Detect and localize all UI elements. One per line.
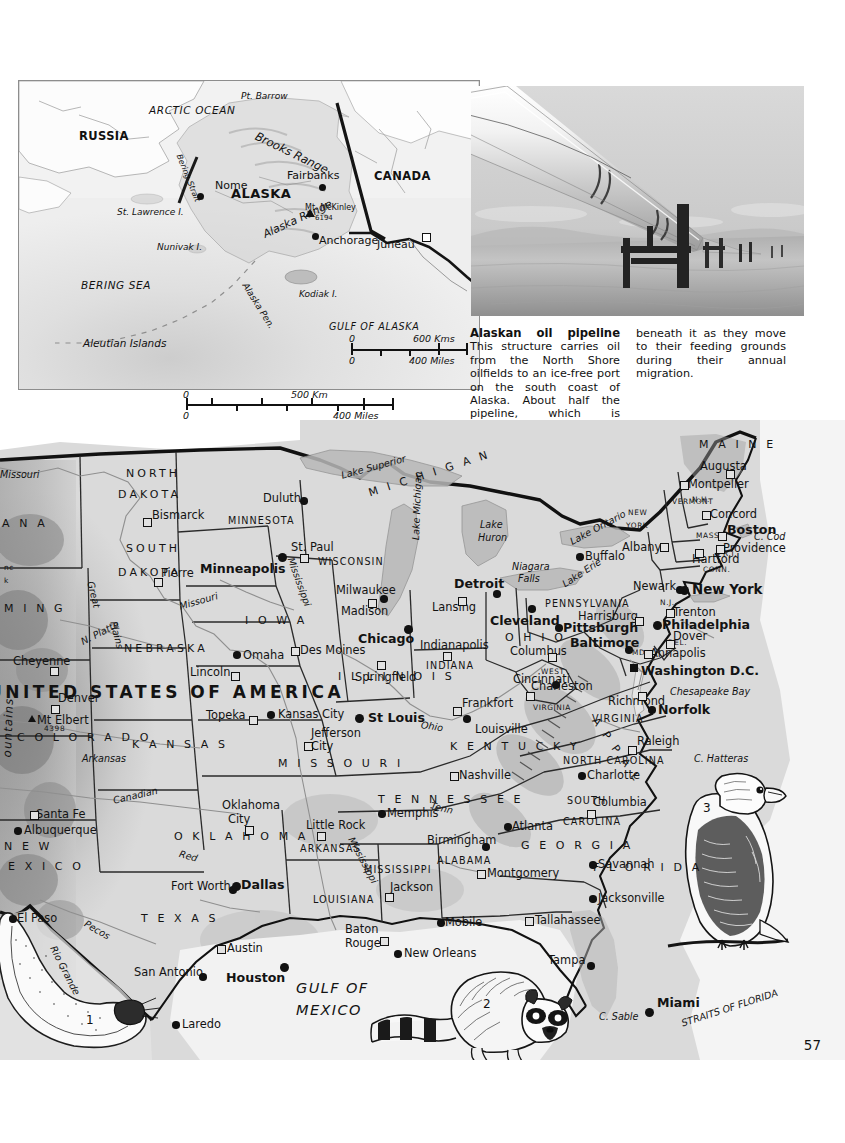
map-label-state-t-e-x-a-s: T E X A S [141, 912, 219, 925]
map-label-physical-ountains: ountains [0, 697, 16, 757]
map-label-city-jacksonville: Jacksonville [598, 891, 665, 905]
map-label-city-st-paul: St. Paul [291, 540, 334, 554]
map-label-city-bismarck: Bismarck [152, 508, 204, 522]
map-label-city-rouge: Rouge [345, 936, 381, 950]
map-label-state-o-h-i-o: O H I O [505, 631, 566, 644]
map-label-state-indiana: INDIANA [426, 660, 474, 671]
city-dot-icon [280, 963, 289, 972]
map-label-state-new: NEW [628, 508, 647, 517]
capital-square-icon [422, 233, 431, 242]
capital-square-icon [217, 945, 226, 954]
map-label-gulf-of-mexico-line2: MEXICO [296, 1002, 362, 1018]
scale-tick [392, 398, 394, 410]
city-dot-icon [404, 625, 413, 634]
alaska-scale-miles: 400 Miles [409, 355, 454, 366]
capital-square-icon [638, 692, 647, 701]
map-label-city-jefferson: Jefferson [311, 726, 361, 740]
map-label-state-minnesota: MINNESOTA [228, 515, 295, 526]
map-label-physical-chesapeake-bay: Chesapeake Bay [670, 686, 750, 697]
map-label-city-st-louis: St Louis [368, 710, 425, 725]
united-states-map: GULF OF MEXICO 1 [0, 420, 845, 1060]
capital-square-icon [695, 549, 704, 558]
scale-tick [261, 398, 263, 405]
city-dot-icon [589, 895, 597, 903]
map-label-physical-lake: Lake [480, 519, 503, 530]
map-label-city-lincoln: Lincoln [190, 665, 230, 679]
map-label-country-name: UNITED STATES OF AMERICA [0, 682, 344, 702]
alaska-label-mt-mckinley-elevation: 6194 [315, 214, 333, 222]
map-label-city-springfield: Springfield [355, 670, 416, 684]
map-label-city-des-moines: Des Moines [300, 643, 365, 657]
capital-square-icon [368, 599, 377, 608]
map-label-physical-niagara: Niagara [512, 561, 550, 572]
city-dot-icon [482, 843, 490, 851]
capital-square-icon [30, 811, 39, 820]
city-dot-icon [300, 497, 308, 505]
map-label-city-columbus: Columbus [510, 644, 567, 658]
city-dot-icon [437, 919, 445, 927]
map-label-city-nashville: Nashville [459, 768, 511, 782]
map-label-city-detroit: Detroit [454, 576, 504, 591]
map-label-city-new-orleans: New Orleans [404, 946, 476, 960]
alaska-label-kodiak-island: Kodiak I. [299, 289, 337, 299]
map-label-city-santa-fe: Santa Fe [36, 807, 85, 821]
capital-square-icon [385, 893, 394, 902]
map-label-city-laredo: Laredo [182, 1017, 221, 1031]
capital-square-icon [718, 532, 727, 541]
alaska-label-st-lawrence-island: St. Lawrence I. [117, 207, 184, 217]
caption-column-2: beneath it as they move to their feeding… [636, 327, 786, 381]
national-capital-icon [630, 664, 638, 672]
alaska-inset-map: RUSSIA CANADA ALASKA ARCTIC OCEAN BERING… [18, 80, 480, 390]
map-label-city-atlanta: Atlanta [512, 819, 553, 833]
map-label-state-dakota: DAKOTA [118, 488, 181, 501]
city-dot-icon [576, 553, 584, 561]
city-dot-icon [676, 586, 684, 594]
page-number: 57 [804, 1037, 821, 1053]
map-label-state-k-e-n-t-u-c-k-y: K E N T U C K Y [450, 740, 580, 753]
map-label-city-augusta: Augusta [700, 459, 747, 473]
map-label-state-o-k-l-a-h-o-m-a: O K L A H O M A [174, 830, 308, 843]
map-label-city-topeka: Topeka [206, 708, 246, 722]
map-label-state-n-e-w: N E W [4, 840, 53, 853]
city-dot-icon [648, 706, 656, 714]
map-label-city-dallas: Dallas [241, 877, 285, 892]
capital-square-icon [525, 917, 534, 926]
alaska-city-juneau: Juneau [377, 238, 415, 251]
scale-tick [438, 343, 440, 355]
capital-square-icon [680, 481, 689, 490]
capital-square-icon [249, 716, 258, 725]
alaska-label-pt-barrow: Pt. Barrow [241, 91, 288, 101]
city-dot-icon [14, 827, 22, 835]
capital-square-icon [231, 672, 240, 681]
map-label-city-tallahassee: Tallahassee [535, 913, 600, 927]
capital-square-icon [660, 543, 669, 552]
city-dot-icon [9, 915, 17, 923]
scale-tick [236, 404, 238, 411]
map-label-city-pittsburgh: Pittsburgh [563, 620, 638, 635]
alaska-label-nunivak-island: Nunivak I. [157, 242, 202, 252]
map-label-state-york: YORK [626, 521, 648, 530]
map-label-city-concord: Concord [710, 507, 757, 521]
map-label-city-raleigh: Raleigh [637, 734, 679, 748]
city-dot-icon [233, 651, 241, 659]
map-label-city-milwaukee: Milwaukee [336, 583, 396, 597]
map-label-state-north: NORTH [126, 467, 180, 480]
map-label-state-m-a-i-n-e: M A I N E [699, 438, 776, 451]
mountain-peak-icon [305, 209, 315, 217]
map-label-city-montpelier: Montpelier [688, 477, 749, 491]
alaska-label-arctic-ocean: ARCTIC OCEAN [149, 104, 235, 116]
city-dot-icon [355, 714, 364, 723]
map-label-city-albany: Albany [622, 540, 661, 554]
city-dot-icon [645, 1008, 654, 1017]
alaska-city-nome: Nome [215, 179, 247, 192]
map-label-physical-arkansas: Arkansas [82, 753, 126, 764]
city-dot-icon [578, 772, 586, 780]
map-label-city-cleveland: Cleveland [490, 613, 560, 628]
map-label-city-miami: Miami [657, 995, 700, 1010]
map-label-state-south: SOUTH [126, 542, 180, 555]
map-label-city-indianapolis: Indianapolis [420, 638, 489, 652]
map-label-physical-c-sable: C. Sable [599, 1011, 638, 1022]
map-label-city-city: City [311, 739, 333, 753]
capital-square-icon [380, 937, 389, 946]
city-dot-icon [380, 595, 388, 603]
